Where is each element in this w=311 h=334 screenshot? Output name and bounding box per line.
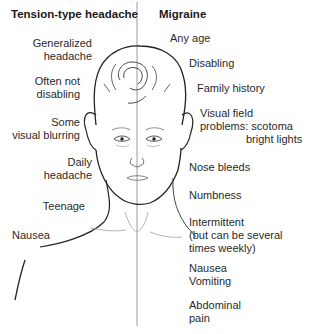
left-item-nausea: Nausea — [12, 229, 50, 242]
left-item-often-not-disabling: Often not disabling — [35, 75, 80, 101]
migraine-heading: Migraine — [159, 8, 206, 21]
right-item-abdominal-pain: Abdominal pain — [189, 299, 241, 325]
right-item-any-age: Any age — [170, 32, 210, 45]
left-item-teenage: Teenage — [43, 200, 85, 213]
right-item-numbness: Numbness — [189, 189, 242, 202]
right-item-family-history: Family history — [197, 82, 265, 95]
right-item-disabling: Disabling — [189, 57, 234, 70]
right-item-nausea-vomiting: Nausea Vomiting — [189, 262, 231, 288]
head-outline — [94, 46, 185, 125]
right-item-intermittent: Intermittent (but can be several times w… — [189, 216, 283, 255]
left-item-generalized: Generalized headache — [33, 37, 92, 63]
right-item-nose-bleeds: Nose bleeds — [189, 161, 250, 174]
tension-type-heading: Tension-type headache — [11, 8, 138, 21]
left-ear-icon — [84, 113, 96, 150]
shoulder-line — [15, 260, 25, 300]
left-item-daily-headache: Daily headache — [44, 156, 92, 182]
right-item-visual-field: Visual field problems: scotoma bright li… — [200, 107, 302, 146]
left-item-visual-blurring: Some visual blurring — [12, 116, 80, 142]
neck-left — [40, 180, 110, 247]
